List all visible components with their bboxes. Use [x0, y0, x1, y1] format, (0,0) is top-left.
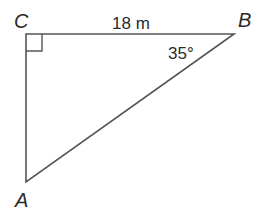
vertex-label-c: C — [14, 10, 29, 32]
triangle-abc — [26, 34, 234, 182]
angle-b-measure: 35° — [168, 44, 194, 63]
triangle-diagram: C B A 18 m 35° — [0, 0, 264, 216]
vertex-label-a: A — [14, 189, 28, 211]
vertex-label-b: B — [238, 9, 251, 31]
right-angle-marker — [26, 34, 42, 51]
side-cb-length: 18 m — [112, 14, 150, 33]
